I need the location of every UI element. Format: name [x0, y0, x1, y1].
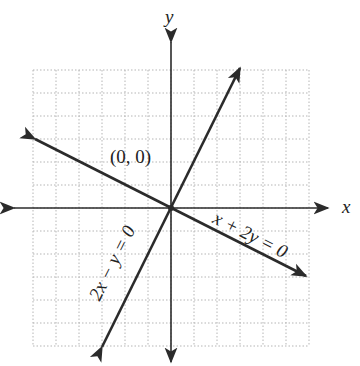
- coordinate-plane: [0, 0, 360, 366]
- origin-point: [168, 205, 174, 211]
- x-axis-label: x: [342, 196, 350, 218]
- origin-label: (0, 0): [110, 146, 151, 168]
- y-axis-label: y: [165, 6, 173, 28]
